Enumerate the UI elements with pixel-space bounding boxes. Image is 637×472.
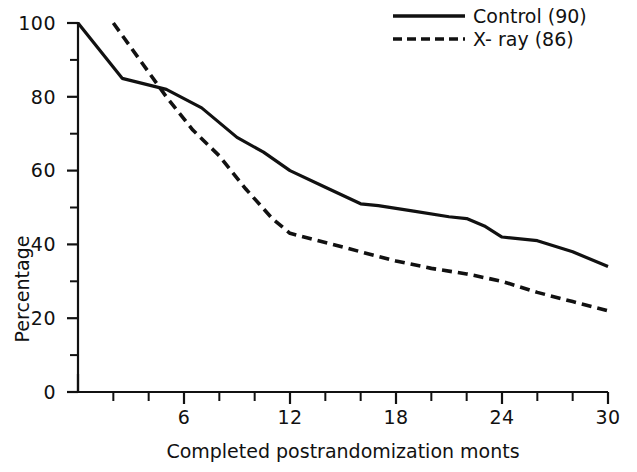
x-tick-label-18: 18 xyxy=(376,406,416,428)
legend-item-control: Control (90) xyxy=(392,4,632,27)
legend-dashed-line-icon xyxy=(392,32,466,46)
x-tick-label-12: 12 xyxy=(270,406,310,428)
legend-item-xray: X- ray (86) xyxy=(392,27,632,50)
cut-off-text-fragment xyxy=(8,461,408,472)
y-tick-label-100: 100 xyxy=(4,12,56,34)
x-tick-label-30: 30 xyxy=(588,406,628,428)
legend-label-xray: X- ray (86) xyxy=(473,28,574,50)
figure-container: 100 80 60 40 20 0 6 12 18 24 30 Complete… xyxy=(0,0,637,472)
legend-label-control: Control (90) xyxy=(473,5,587,27)
y-axis-title: Percentage xyxy=(11,229,33,349)
data-series-group xyxy=(78,23,608,311)
series-line-1 xyxy=(113,23,608,311)
y-tick-label-60: 60 xyxy=(4,159,56,181)
y-tick-label-80: 80 xyxy=(4,86,56,108)
line-chart-plot xyxy=(0,0,637,472)
chart-legend: Control (90) X- ray (86) xyxy=(392,4,632,50)
y-tick-label-0: 0 xyxy=(4,381,56,403)
x-axis-title: Completed postrandomization monts xyxy=(78,440,608,462)
x-tick-label-6: 6 xyxy=(164,406,204,428)
axes-group xyxy=(67,22,608,404)
x-tick-label-24: 24 xyxy=(482,406,522,428)
legend-solid-line-icon xyxy=(392,9,466,23)
series-line-0 xyxy=(78,23,608,267)
